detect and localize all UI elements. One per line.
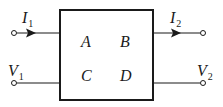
v1-label: V1: [8, 63, 24, 79]
abcd-block: [60, 10, 153, 100]
port2-bottom-terminal: [201, 81, 206, 86]
param-b: B: [120, 34, 130, 50]
param-c: C: [81, 68, 92, 84]
i1-label: I1: [22, 10, 33, 26]
v2-label: V2: [197, 63, 213, 79]
port2-top-terminal: [201, 31, 206, 36]
port1-bottom-terminal: [12, 81, 17, 86]
two-port-diagram: [0, 0, 223, 107]
port1-top-terminal: [12, 31, 17, 36]
param-d: D: [120, 68, 132, 84]
i2-label: I2: [170, 10, 181, 26]
param-a: A: [81, 34, 91, 50]
